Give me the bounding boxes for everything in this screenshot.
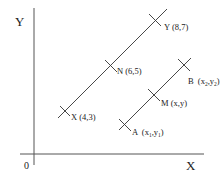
diagram-canvas: Y X 0 X (4,3) N (6,5) Y (8,7) M (x,y) A … xyxy=(0,0,224,180)
point-m-label: M (x,y) xyxy=(161,98,187,108)
origin-label: 0 xyxy=(24,160,29,171)
point-a-label: A (x1,y1) xyxy=(132,127,164,138)
point-b-label: B (x2,y2) xyxy=(188,76,220,87)
tick-n xyxy=(105,60,117,72)
x-axis-label: X xyxy=(186,158,196,173)
point-n-label: N (6,5) xyxy=(117,66,142,76)
coordinate-diagram: Y X 0 X (4,3) N (6,5) Y (8,7) M (x,y) A … xyxy=(0,0,224,180)
tick-y xyxy=(149,14,161,26)
tick-a xyxy=(119,119,131,131)
point-y-label: Y (8,7) xyxy=(164,22,188,32)
point-x-label: X (4,3) xyxy=(71,112,96,122)
line-xy xyxy=(58,9,167,118)
y-axis-label: Y xyxy=(15,14,25,29)
